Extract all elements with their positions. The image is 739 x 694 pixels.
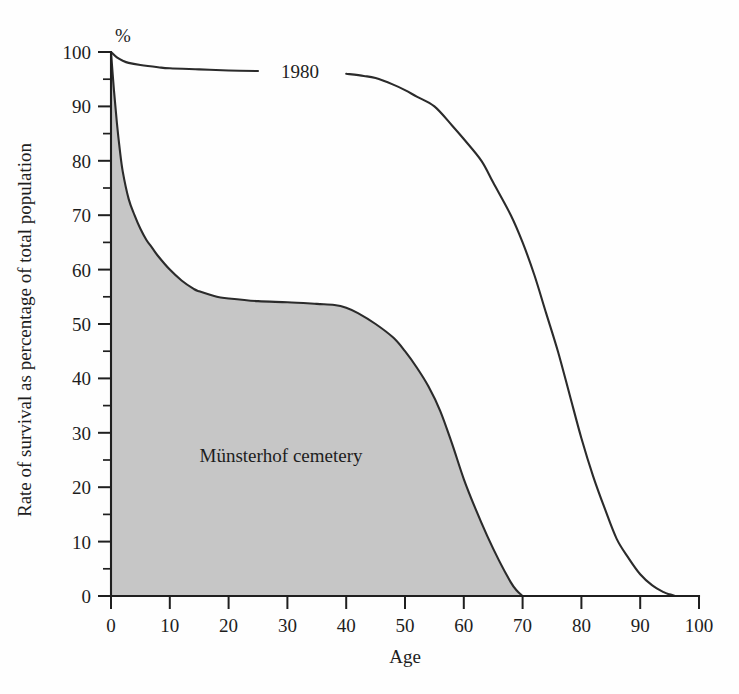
y-axis-ticks [98, 52, 111, 596]
x-tick-label: 60 [454, 615, 473, 636]
x-tick-label: 0 [106, 615, 116, 636]
x-tick-label: 70 [513, 615, 532, 636]
cemetery-area-label: Münsterhof cemetery [199, 445, 363, 466]
x-tick-label: 80 [572, 615, 591, 636]
x-tick-label: 90 [631, 615, 650, 636]
y-tick-label: 50 [72, 314, 91, 335]
y-tick-label: 0 [82, 586, 92, 607]
y-tick-label: 20 [72, 477, 91, 498]
y-axis-unit-label: % [115, 25, 131, 46]
x-tick-label: 10 [160, 615, 179, 636]
series-1980-curve-segment-1 [111, 52, 258, 71]
y-tick-label: 10 [72, 532, 91, 553]
cemetery-area-fill [111, 52, 523, 596]
survival-curve-figure: 0102030405060708090100 01020304050607080… [0, 0, 739, 694]
x-tick-label: 40 [337, 615, 356, 636]
y-tick-label: 40 [72, 368, 91, 389]
x-axis-ticks [111, 596, 699, 609]
y-tick-label: 80 [72, 151, 91, 172]
x-tick-label: 20 [219, 615, 238, 636]
y-tick-label: 70 [72, 205, 91, 226]
x-axis-tick-labels: 0102030405060708090100 [106, 615, 713, 636]
x-axis-title: Age [389, 646, 421, 667]
series-1980-label: 1980 [281, 61, 319, 82]
y-tick-label: 30 [72, 423, 91, 444]
cemetery-area [111, 52, 523, 596]
y-tick-label: 60 [72, 260, 91, 281]
y-axis-title: Rate of survival as percentage of total … [14, 142, 35, 517]
y-tick-label: 100 [63, 42, 92, 63]
x-tick-label: 30 [278, 615, 297, 636]
series-1980-annotation: 1980 [266, 60, 334, 86]
y-axis-tick-labels: 0102030405060708090100 [63, 42, 92, 607]
chart-canvas: 0102030405060708090100 01020304050607080… [0, 0, 739, 694]
x-tick-label: 50 [396, 615, 415, 636]
x-tick-label: 100 [685, 615, 714, 636]
y-tick-label: 90 [72, 96, 91, 117]
